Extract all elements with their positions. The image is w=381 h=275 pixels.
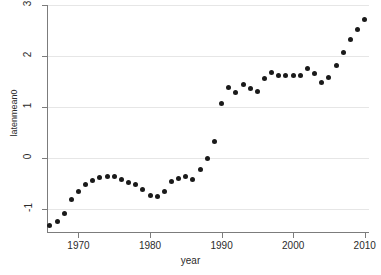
y-tick-label-text: 2 — [23, 52, 34, 58]
x-tick-label: 1990 — [202, 240, 242, 251]
data-point — [198, 167, 203, 172]
data-point — [205, 156, 210, 161]
data-point — [276, 73, 281, 78]
y-tick-label: 3 — [18, 0, 38, 9]
data-point — [312, 71, 317, 76]
x-axis-title: year — [0, 255, 381, 266]
y-tick-label: -1 — [18, 202, 38, 213]
y-tick-label-text: 3 — [23, 1, 34, 7]
data-point — [348, 37, 353, 42]
data-point — [190, 177, 195, 182]
data-point — [47, 223, 52, 228]
x-tick-mark — [78, 233, 79, 238]
y-tick-label: 2 — [18, 49, 38, 60]
x-tick-label: 1970 — [58, 240, 98, 251]
data-point — [83, 182, 88, 187]
data-point — [155, 194, 160, 199]
x-tick-mark — [365, 233, 366, 238]
data-point — [291, 73, 296, 78]
x-tick-mark — [150, 233, 151, 238]
data-point — [248, 86, 253, 91]
y-tick-label-text: 1 — [23, 103, 34, 109]
data-point — [341, 50, 346, 55]
data-point — [305, 66, 310, 71]
data-point — [76, 189, 81, 194]
data-point — [55, 219, 60, 224]
data-point — [334, 63, 339, 68]
data-point — [283, 73, 288, 78]
data-point — [241, 82, 246, 87]
data-point — [355, 27, 360, 32]
data-point — [90, 178, 95, 183]
x-tick-label: 2000 — [273, 240, 313, 251]
data-point — [255, 89, 260, 94]
x-tick-label: 1980 — [130, 240, 170, 251]
x-axis-line — [47, 232, 369, 233]
data-point — [69, 197, 74, 202]
data-point — [62, 211, 67, 216]
data-point — [183, 174, 188, 179]
data-point — [262, 76, 267, 81]
y-axis-title: latenmean0 — [9, 63, 19, 163]
data-point — [176, 176, 181, 181]
data-point — [319, 80, 324, 85]
data-point — [233, 90, 238, 95]
x-tick-mark — [293, 233, 294, 238]
y-tick-label: 1 — [18, 100, 38, 111]
data-point — [162, 189, 167, 194]
data-point — [148, 193, 153, 198]
data-point — [126, 180, 131, 185]
data-point — [226, 85, 231, 90]
data-point — [219, 101, 224, 106]
data-point — [112, 174, 117, 179]
data-point — [169, 179, 174, 184]
y-tick-label: 0 — [18, 151, 38, 162]
data-point — [133, 182, 138, 187]
y-tick-label-text: 0 — [23, 154, 34, 160]
data-point — [212, 139, 217, 144]
data-point — [269, 70, 274, 75]
data-point — [140, 187, 145, 192]
x-tick-mark — [222, 233, 223, 238]
data-point — [105, 174, 110, 179]
data-point — [326, 75, 331, 80]
scatter-plot-figure: -10123 19701980199020002010 latenmean0 y… — [0, 0, 381, 275]
data-point — [119, 177, 124, 182]
data-point — [97, 175, 102, 180]
y-tick-label-text: -1 — [23, 203, 34, 212]
plot-area — [47, 5, 369, 232]
data-point — [298, 73, 303, 78]
data-point — [362, 17, 367, 22]
x-tick-label: 2010 — [345, 240, 381, 251]
